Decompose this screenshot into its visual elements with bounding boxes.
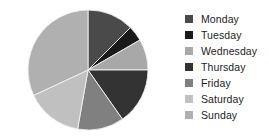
legend-swatch-wednesday — [185, 47, 193, 55]
legend-label-friday: Friday — [201, 75, 231, 91]
legend-swatch-sunday — [185, 111, 193, 119]
legend-swatch-monday — [185, 15, 193, 23]
legend-item-wednesday[interactable]: Wednesday — [178, 43, 269, 59]
legend-label-thursday: Thursday — [201, 59, 246, 75]
legend-item-sunday[interactable]: Sunday — [178, 107, 269, 123]
legend-item-saturday[interactable]: Saturday — [178, 91, 269, 107]
legend-label-saturday: Saturday — [201, 91, 244, 107]
legend-item-thursday[interactable]: Thursday — [178, 59, 269, 75]
pie-svg — [0, 0, 178, 140]
legend-label-tuesday: Tuesday — [201, 27, 242, 43]
chart-legend: Monday Tuesday Wednesday Thursday Friday… — [178, 0, 269, 140]
legend-label-sunday: Sunday — [201, 107, 237, 123]
legend-item-monday[interactable]: Monday — [178, 11, 269, 27]
legend-swatch-thursday — [185, 63, 193, 71]
legend-label-wednesday: Wednesday — [201, 43, 257, 59]
pie-chart-figure: Monday Tuesday Wednesday Thursday Friday… — [0, 0, 269, 140]
legend-item-friday[interactable]: Friday — [178, 75, 269, 91]
pie-plot-area — [0, 0, 178, 140]
legend-label-monday: Monday — [201, 11, 239, 27]
legend-swatch-friday — [185, 79, 193, 87]
legend-swatch-saturday — [185, 95, 193, 103]
legend-item-tuesday[interactable]: Tuesday — [178, 27, 269, 43]
legend-swatch-tuesday — [185, 31, 193, 39]
